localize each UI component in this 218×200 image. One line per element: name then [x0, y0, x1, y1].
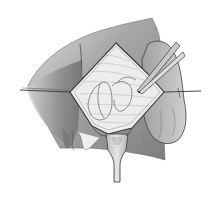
surgical-illustration — [0, 0, 218, 200]
